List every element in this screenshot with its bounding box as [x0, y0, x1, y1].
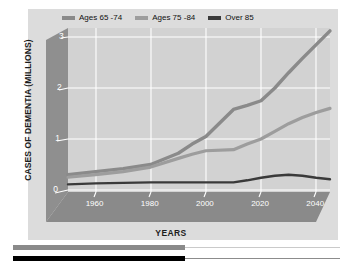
legend-label: Ages 65 -74	[79, 13, 122, 22]
legend-item-3[interactable]: Over 85	[208, 13, 253, 22]
legend-swatch-icon	[135, 16, 148, 20]
legend-label: Over 85	[225, 13, 253, 22]
legend-item-2[interactable]: Ages 75 -84	[135, 13, 195, 22]
chart-legend: Ages 65 -74Ages 75 -84Over 85	[62, 13, 254, 22]
y-tick-label-1: 1	[46, 133, 60, 143]
x-tick-label-1980: 1980	[133, 199, 167, 208]
footer-rules	[0, 245, 342, 267]
x-axis-title: YEARS	[0, 228, 342, 238]
legend-swatch-icon	[208, 16, 221, 20]
x-tick-label-2040: 2040	[298, 199, 332, 208]
chart-figure: 3210 19601980200020202040 CASES OF DEMEN…	[0, 0, 342, 267]
x-tick-label-1960: 1960	[78, 199, 112, 208]
footer-rule-row-2	[0, 256, 342, 267]
plot-area-background	[68, 28, 330, 192]
x-tick-label-2020: 2020	[243, 199, 277, 208]
legend-item-1[interactable]: Ages 65 -74	[62, 13, 122, 22]
y-axis-title: CASES OF DEMENTIA (MILLIONS)	[23, 30, 33, 190]
x-tick-label-2000: 2000	[188, 199, 222, 208]
gray-rule	[13, 245, 185, 250]
legend-label: Ages 75 -84	[152, 13, 195, 22]
footer-rule-row-1	[0, 245, 342, 256]
legend-swatch-icon	[62, 16, 75, 20]
y-tick-label-0: 0	[44, 184, 58, 194]
y-tick-label-3: 3	[50, 31, 64, 41]
black-rule	[13, 256, 185, 261]
y-tick-label-2: 2	[48, 82, 62, 92]
